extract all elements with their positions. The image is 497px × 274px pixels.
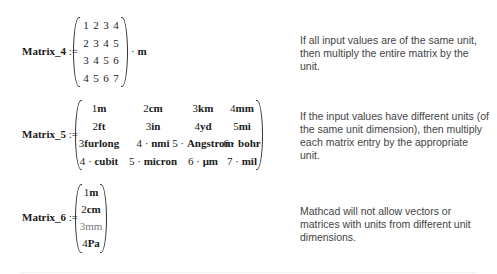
matrix6-grid: 1m 2cm 3mm 4Pa — [75, 184, 107, 253]
matrix5-note: If the input values have different units… — [300, 110, 490, 162]
matrix4-name: Matrix_4 — [22, 45, 66, 57]
matrix-cell: 5 — [93, 72, 99, 84]
matrix-cell: 1m — [92, 102, 107, 114]
matrix-cell: 4 — [103, 37, 109, 49]
matrix-cell: 2 — [83, 37, 89, 49]
matrix-cell: 6 · bohr — [223, 137, 260, 149]
matrix-cell: 1 — [83, 19, 89, 31]
matrix-cell: 3 — [103, 19, 109, 31]
multiply-operator: · — [131, 45, 135, 57]
matrix-cell: 4mm — [230, 102, 254, 114]
matrix5-name: Matrix_5 — [22, 128, 66, 140]
matrix-cell: 6 — [103, 72, 109, 84]
matrix-cell: 4Pa — [82, 237, 100, 249]
matrix-cell: 4 — [113, 19, 119, 31]
matrix-cell: 4 — [93, 54, 99, 66]
matrix4-grid: 1 2 3 4 2 3 4 5 3 4 5 6 4 5 6 7 — [73, 17, 128, 87]
matrix-cell: 3in — [146, 120, 161, 132]
matrix-cell: 4yd — [194, 120, 211, 132]
matrix5-label: Matrix_5 := — [22, 128, 78, 140]
matrix4-note: If all input values are of the same unit… — [300, 34, 490, 73]
matrix4-label: Matrix_4 := — [22, 45, 78, 57]
matrix-cell: 2cm — [81, 203, 101, 215]
matrix-cell: 1m — [84, 186, 99, 198]
matrix6[interactable]: 1m 2cm 3mm 4Pa — [75, 184, 107, 253]
matrix-cell: 3km — [193, 102, 214, 114]
matrix-cell: 5 · micron — [129, 155, 177, 167]
matrix-cell: 2ft — [93, 120, 106, 132]
matrix-cell: 3 — [83, 54, 89, 66]
matrix-cell: 4 — [83, 72, 89, 84]
unit: m — [137, 45, 146, 57]
matrix-cell: 5 — [113, 37, 119, 49]
matrix4-unit-multiplier: · m — [131, 45, 147, 57]
matrix-cell: 6 · μm — [188, 155, 218, 167]
matrix-cell: 5 — [103, 54, 109, 66]
matrix-cell: 7 · mil — [227, 155, 257, 167]
matrix-cell: 7 — [113, 72, 119, 84]
region-separator — [20, 272, 477, 273]
matrix-cell: 3 — [93, 37, 99, 49]
matrix-cell: 6 — [113, 54, 119, 66]
matrix6-name: Matrix_6 — [22, 211, 66, 223]
matrix-cell: 4 · cubit — [80, 155, 119, 167]
matrix-cell: 4 · nmi — [136, 137, 169, 149]
matrix6-label: Matrix_6 := — [22, 211, 78, 223]
matrix-cell: 5mi — [233, 120, 251, 132]
matrix-cell-error: 3mm — [80, 220, 103, 232]
matrix-cell: 2cm — [143, 102, 163, 114]
matrix5-grid: 1m 2cm 3km 4mm 2ft 3in 4yd 5mi 3furlong … — [75, 100, 263, 170]
matrix4[interactable]: 1 2 3 4 2 3 4 5 3 4 5 6 4 5 6 7 — [73, 17, 128, 87]
matrix6-note: Mathcad will not allow vectors or matric… — [300, 205, 490, 244]
matrix-cell: 3furlong — [79, 137, 119, 149]
matrix5[interactable]: 1m 2cm 3km 4mm 2ft 3in 4yd 5mi 3furlong … — [75, 100, 263, 170]
matrix-cell: 2 — [93, 19, 99, 31]
